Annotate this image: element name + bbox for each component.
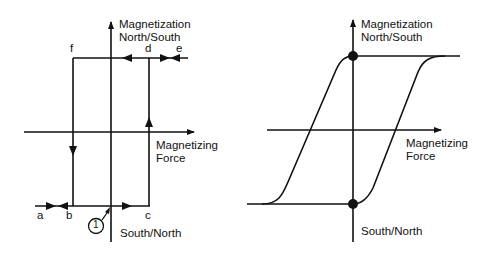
label-line: Force (406, 150, 468, 163)
square-loop-diagram (24, 22, 194, 242)
label-line: Magnetization (361, 18, 433, 31)
x-axis-right-label: Magnetizing Force (156, 139, 218, 165)
arrow-left-icon (122, 54, 132, 62)
arrow-up-icon (145, 117, 153, 127)
remanence-dot-top (348, 51, 358, 61)
callout-number: 1 (93, 219, 99, 230)
arrow-right-icon (46, 202, 56, 210)
label-line: Magnetizing (406, 137, 468, 150)
arrow-down-icon (69, 146, 77, 156)
point-d-label: d (145, 42, 151, 54)
label-line: Force (156, 152, 218, 165)
label-line: Magnetization (119, 18, 191, 31)
label-line: North/South (361, 31, 433, 44)
hysteresis-loop-diagram (247, 20, 460, 242)
point-e-label: e (176, 42, 182, 54)
label-line: Magnetizing (156, 139, 218, 152)
point-a-label: a (37, 209, 43, 221)
y-axis-top-label: Magnetization North/South (361, 18, 433, 44)
x-axis-right-label: Magnetizing Force (406, 137, 468, 163)
y-axis-bottom-label: South/North (120, 227, 181, 240)
arrow-right-icon (122, 202, 132, 210)
point-b-label: b (66, 209, 72, 221)
y-axis-bottom-label: South/North (361, 225, 422, 238)
remanence-dot-bottom (348, 199, 358, 209)
arrow-left-icon (170, 54, 180, 62)
point-c-label: c (145, 209, 151, 221)
arrow-right-icon (160, 54, 170, 62)
point-f-label: f (70, 42, 73, 54)
y-axis-top-label: Magnetization North/South (119, 18, 191, 44)
